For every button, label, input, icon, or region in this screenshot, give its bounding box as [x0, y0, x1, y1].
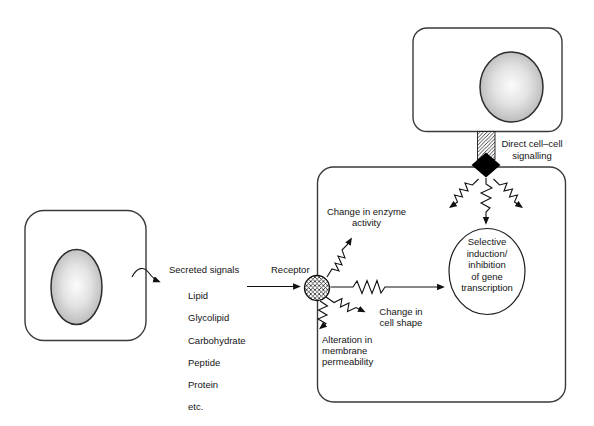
direct-cell-cell-label: Direct cell–cell signalling: [496, 138, 568, 161]
change-enzyme-activity-label: Change in enzyme activity: [320, 206, 413, 228]
signal-type-list: Lipid Glycolipid Carbohydrate Peptide Pr…: [188, 279, 246, 424]
alteration-membrane-label: Alteration in membrane permeability: [322, 334, 373, 367]
signal-type-peptide: Peptide: [188, 357, 246, 368]
secreted-signals-heading: Secreted signals: [169, 264, 239, 275]
contacting-cell-nucleus: [480, 52, 543, 122]
secreting-cell-nucleus: [51, 250, 102, 325]
cell-signalling-diagram: Secreted signals Lipid Glycolipid Carboh…: [0, 0, 594, 426]
change-cell-shape-label: Change in cell shape: [370, 306, 432, 328]
receptor-icon: [305, 276, 330, 301]
receptor-label: Receptor: [271, 264, 310, 275]
signal-type-lipid: Lipid: [188, 290, 246, 301]
selective-transcription-label: Selective induction/ inhibition of gene …: [442, 236, 532, 294]
signal-type-carbohydrate: Carbohydrate: [188, 335, 246, 346]
signal-type-etc: etc.: [188, 401, 246, 412]
signal-type-glycolipid: Glycolipid: [188, 312, 246, 323]
signal-type-protein: Protein: [188, 379, 246, 390]
diagram-artwork: [0, 0, 594, 426]
